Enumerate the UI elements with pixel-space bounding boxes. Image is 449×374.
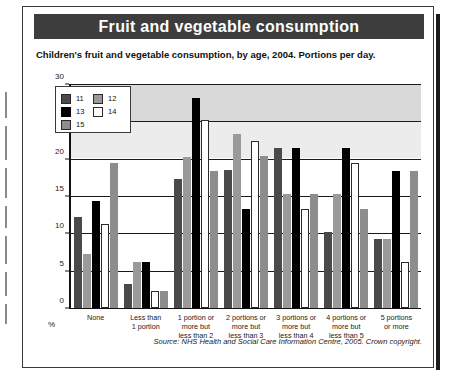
y-tick-mark-30 bbox=[65, 84, 69, 85]
bar-age-14 bbox=[351, 163, 359, 308]
legend-label-15: 15 bbox=[76, 120, 84, 129]
bar-age-12 bbox=[233, 134, 241, 308]
bar-age-15 bbox=[360, 209, 368, 308]
bar-age-12 bbox=[383, 239, 391, 308]
bar-age-13 bbox=[242, 209, 250, 308]
y-tick-mark-15 bbox=[65, 196, 69, 197]
legend-swatch-icon-14 bbox=[93, 107, 103, 117]
y-tick-label-5: 5 bbox=[60, 258, 69, 267]
legend-row: 15 bbox=[61, 118, 125, 131]
bar-group bbox=[321, 85, 371, 308]
y-tick-label-20: 20 bbox=[55, 146, 69, 155]
bar-age-15 bbox=[410, 171, 418, 307]
bar-group bbox=[371, 85, 421, 308]
bar-age-14 bbox=[301, 209, 309, 308]
y-tick-mark-20 bbox=[65, 158, 69, 159]
x-axis-category-labels: NoneLess than1 portion1 portion ormore b… bbox=[71, 313, 422, 340]
legend-swatch-icon-15 bbox=[61, 120, 71, 130]
bar-age-14 bbox=[151, 291, 159, 307]
bar-age-12 bbox=[133, 262, 141, 307]
bar-age-11 bbox=[74, 217, 82, 307]
y-tick-label-10: 10 bbox=[55, 221, 69, 230]
bar-age-11 bbox=[324, 232, 332, 308]
bar-age-15 bbox=[160, 291, 168, 307]
bar-age-12 bbox=[183, 157, 191, 308]
bar-age-13 bbox=[392, 171, 400, 307]
y-tick-mark-0 bbox=[65, 308, 69, 309]
legend-entry-11: 11 bbox=[61, 94, 93, 104]
bar-age-11 bbox=[124, 284, 132, 308]
y-tick-mark-10 bbox=[65, 233, 69, 234]
bar-group bbox=[271, 85, 321, 308]
bar-age-15 bbox=[260, 156, 268, 307]
y-tick-label-30: 30 bbox=[55, 72, 69, 81]
bar-age-11 bbox=[224, 170, 232, 307]
page: Fruit and vegetable consumption Children… bbox=[0, 0, 449, 374]
y-tick-label-15: 15 bbox=[55, 184, 69, 193]
plot-area: 051015202530 NoneLess than1 portion1 por… bbox=[36, 73, 424, 313]
y-tick-label-0: 0 bbox=[60, 296, 69, 305]
legend-swatch-icon-12 bbox=[93, 94, 103, 104]
bar-age-14 bbox=[101, 224, 109, 307]
legend-entry-12: 12 bbox=[93, 94, 125, 104]
bar-age-14 bbox=[401, 262, 409, 307]
bar-age-15 bbox=[110, 163, 118, 308]
x-category-label: 1 portion ormore butless than 2 bbox=[171, 313, 221, 340]
x-category-label: 3 portions ormore butless than 4 bbox=[271, 313, 321, 340]
bar-age-13 bbox=[292, 148, 300, 307]
bar-age-13 bbox=[192, 98, 200, 308]
bar-age-14 bbox=[201, 120, 209, 308]
legend-row: 13 14 bbox=[61, 105, 125, 118]
bar-age-12 bbox=[83, 254, 91, 307]
figure-title: Fruit and vegetable consumption bbox=[99, 18, 360, 36]
figure-title-bar: Fruit and vegetable consumption bbox=[34, 14, 424, 39]
bar-age-15 bbox=[210, 171, 218, 307]
figure-panel: Fruit and vegetable consumption Children… bbox=[22, 6, 434, 368]
legend-swatch-icon-13 bbox=[61, 107, 71, 117]
legend-swatch-icon-11 bbox=[61, 94, 71, 104]
legend-label-14: 14 bbox=[108, 107, 116, 116]
legend: 11 12 13 14 bbox=[55, 86, 131, 133]
bar-group bbox=[171, 85, 221, 308]
bar-age-11 bbox=[274, 148, 282, 307]
x-category-label: 2 portions ormore butless than 3 bbox=[221, 313, 271, 340]
legend-label-11: 11 bbox=[76, 94, 84, 103]
bar-age-14 bbox=[251, 141, 259, 307]
figure-subtitle: Children's fruit and vegetable consumpti… bbox=[36, 49, 426, 60]
x-axis-line bbox=[69, 308, 421, 310]
x-category-label: None bbox=[71, 313, 121, 340]
legend-entry-15: 15 bbox=[61, 120, 99, 130]
x-category-label: 4 portions ormore butless than 5 bbox=[321, 313, 371, 340]
y-axis-unit-label: % bbox=[48, 320, 55, 329]
bar-age-13 bbox=[92, 201, 100, 307]
bar-age-11 bbox=[374, 239, 382, 308]
scan-gutter bbox=[0, 0, 14, 374]
x-category-label: 5 portionsor more bbox=[371, 313, 421, 340]
bar-age-15 bbox=[310, 194, 318, 307]
legend-entry-13: 13 bbox=[61, 107, 93, 117]
bar-age-11 bbox=[174, 179, 182, 307]
legend-entry-14: 14 bbox=[93, 107, 125, 117]
legend-row: 11 12 bbox=[61, 92, 125, 105]
bar-age-13 bbox=[142, 262, 150, 307]
x-category-label: Less than1 portion bbox=[121, 313, 171, 340]
y-tick-mark-5 bbox=[65, 270, 69, 271]
legend-label-12: 12 bbox=[108, 94, 116, 103]
bar-age-12 bbox=[333, 194, 341, 307]
source-note: Source: NHS Health and Social Care Infor… bbox=[154, 337, 422, 346]
bar-group bbox=[221, 85, 271, 308]
bar-age-12 bbox=[283, 194, 291, 307]
bar-age-13 bbox=[342, 148, 350, 307]
legend-label-13: 13 bbox=[76, 107, 84, 116]
figure-shadow bbox=[436, 14, 440, 370]
